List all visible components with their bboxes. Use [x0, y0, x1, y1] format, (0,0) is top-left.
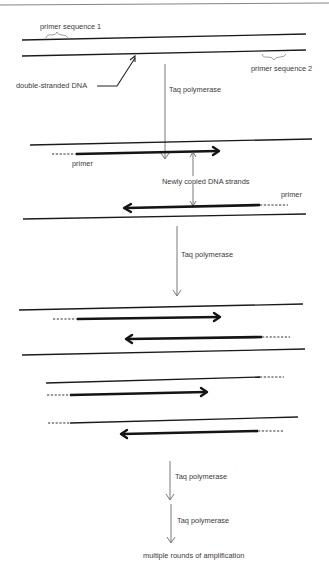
- taq-polymerase-label-4: Taq polymerase: [177, 516, 229, 525]
- dna-bottom-strand: [22, 50, 306, 56]
- template-bottom-strand: [23, 214, 306, 219]
- new-strand-forward: [76, 151, 218, 154]
- primer-sequence-1-brace: [46, 32, 68, 38]
- primer-sequence-2-label: primer sequence 2: [251, 64, 312, 73]
- primer-left-label: primer: [72, 159, 93, 168]
- newly-copied-label: Newly copied DNA strands: [162, 177, 250, 186]
- template-bottom-strand: [22, 349, 305, 355]
- stage-first-copy: primer Newly copied DNA strands primer: [23, 139, 312, 219]
- copy-top-strand: [46, 377, 260, 383]
- final-amplification-label: multiple rounds of amplification: [143, 551, 244, 560]
- primer-right-label: primer: [281, 190, 302, 199]
- template-top-strand: [19, 304, 303, 310]
- taq-arrow-3: Taq polymerase: [166, 461, 227, 500]
- stage-second-cycle: [19, 304, 305, 355]
- header-rule: [0, 3, 329, 5]
- taq-polymerase-label-1: Taq polymerase: [169, 85, 221, 94]
- new-strand-forward: [77, 317, 219, 319]
- taq-arrow-2: Taq polymerase: [173, 226, 233, 296]
- taq-polymerase-label-2: Taq polymerase: [181, 250, 233, 259]
- primer-sequence-2-brace: [262, 54, 286, 60]
- template-top-strand: [30, 139, 312, 145]
- new-strand-forward: [70, 392, 206, 395]
- double-stranded-dna-pointer: [97, 58, 135, 86]
- new-strand-reverse: [128, 337, 262, 339]
- taq-polymerase-label-3: Taq polymerase: [175, 472, 227, 481]
- dna-top-strand: [22, 34, 306, 40]
- stage-original-dna: primer sequence 1 primer sequence 2 doub…: [16, 22, 312, 90]
- new-strand-reverse: [126, 205, 260, 208]
- taq-arrow-4: Taq polymerase: [167, 504, 229, 543]
- new-strand-reverse: [123, 431, 258, 434]
- copy-bottom-strand: [70, 417, 298, 423]
- stage-second-cycle-b: [46, 377, 298, 438]
- pcr-diagram: primer sequence 1 primer sequence 2 doub…: [0, 0, 329, 583]
- taq-arrow-1: Taq polymerase: [161, 64, 221, 159]
- double-stranded-dna-label: double-stranded DNA: [16, 81, 87, 90]
- primer-sequence-1-label: primer sequence 1: [40, 22, 101, 31]
